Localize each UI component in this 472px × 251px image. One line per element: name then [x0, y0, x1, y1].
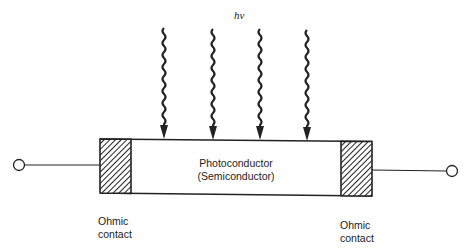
arrowhead-1-icon	[160, 125, 168, 139]
light-ray-4-icon	[306, 30, 309, 128]
photoconductor-diagram: hν Photoconductor (Semiconductor) Ohmic …	[0, 0, 472, 251]
left-contact-label-line1: Ohmic	[98, 215, 128, 227]
left-ohmic-contact	[100, 139, 131, 193]
right-contact-label-line2: contact	[340, 232, 374, 244]
body-label-line2: (Semiconductor)	[197, 170, 274, 182]
arrowhead-2-icon	[209, 126, 217, 140]
right-lead	[372, 170, 447, 171]
right-contact-label-line1: Ohmic	[340, 219, 370, 231]
photon-energy-label: hν	[234, 9, 245, 21]
right-terminal-icon	[447, 166, 458, 177]
arrowhead-4-icon	[303, 127, 311, 141]
left-contact-label-line2: contact	[98, 228, 132, 240]
arrowheads	[160, 125, 311, 141]
body-label-line1: Photoconductor	[199, 157, 273, 169]
left-terminal-icon	[14, 160, 25, 171]
light-ray-2-icon	[212, 29, 215, 127]
light-ray-1-icon	[163, 28, 166, 126]
light-rays	[163, 28, 309, 128]
arrowhead-3-icon	[256, 126, 264, 140]
right-ohmic-contact	[341, 141, 372, 196]
light-ray-3-icon	[259, 29, 262, 127]
